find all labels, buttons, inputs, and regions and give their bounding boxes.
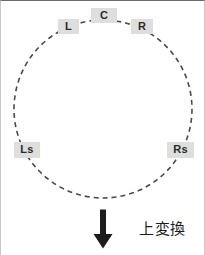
speaker-label-right: R (131, 19, 153, 34)
speaker-label-left: L (58, 19, 79, 34)
down-arrow-shape (94, 210, 113, 249)
listening-position-circle (14, 20, 192, 198)
down-arrow-icon (89, 208, 117, 250)
speaker-label-left-surround: Ls (14, 142, 40, 158)
speaker-label-right-surround: Rs (167, 142, 194, 158)
speaker-label-center: C (91, 8, 117, 23)
upconversion-caption: 上変換 (139, 220, 186, 239)
speaker-layout-figure: C L R Ls Rs 上変換 (0, 0, 205, 255)
